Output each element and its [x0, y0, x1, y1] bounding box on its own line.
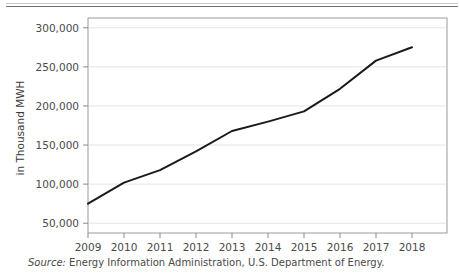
y-axis-tick-label: 150,000	[36, 139, 79, 151]
plot-area-background	[88, 18, 447, 233]
x-axis-tick-label: 2018	[399, 241, 426, 253]
source-text: Energy Information Administration, U.S. …	[66, 257, 384, 268]
y-axis-tick-label: 200,000	[36, 100, 79, 112]
x-axis-tick-label: 2014	[255, 241, 282, 253]
chart-figure: 50,000100,000150,000200,000250,000300,00…	[0, 0, 460, 273]
x-axis-tick-label: 2012	[183, 241, 210, 253]
x-axis-tick-label: 2015	[291, 241, 318, 253]
y-axis-tick-label: 300,000	[36, 22, 79, 34]
y-axis: 50,000100,000150,000200,000250,000300,00…	[36, 22, 88, 229]
y-axis-tick-label: 50,000	[42, 217, 79, 229]
x-axis-tick-label: 2011	[147, 241, 174, 253]
source-label: Source:	[28, 257, 66, 268]
x-axis-tick-label: 2013	[219, 241, 246, 253]
y-axis-title: in Thousand MWH	[14, 81, 26, 176]
x-axis-tick-label: 2009	[75, 241, 102, 253]
y-axis-tick-label: 100,000	[36, 178, 79, 190]
line-chart: 50,000100,000150,000200,000250,000300,00…	[0, 0, 460, 273]
x-axis: 2009201020112012201320142015201620172018	[75, 233, 426, 253]
x-axis-tick-label: 2017	[363, 241, 390, 253]
source-note: Source: Energy Information Administratio…	[28, 257, 384, 268]
y-axis-tick-label: 250,000	[36, 61, 79, 73]
x-axis-tick-label: 2010	[111, 241, 138, 253]
x-axis-tick-label: 2016	[327, 241, 354, 253]
